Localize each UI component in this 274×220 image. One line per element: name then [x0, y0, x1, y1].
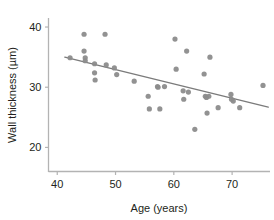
data-point	[192, 127, 197, 132]
data-point	[93, 77, 98, 82]
data-point	[114, 72, 119, 77]
data-point	[157, 106, 162, 111]
data-point	[228, 92, 233, 97]
data-point	[174, 67, 179, 72]
data-point	[204, 111, 209, 116]
data-point	[67, 55, 72, 60]
plot-area-background	[48, 18, 270, 172]
data-point	[231, 98, 236, 103]
data-point	[112, 65, 117, 70]
data-point	[92, 70, 97, 75]
data-point	[202, 71, 207, 76]
data-point	[260, 83, 265, 88]
data-point	[132, 79, 137, 84]
data-point	[92, 61, 97, 66]
x-tick-label-40: 40	[51, 178, 63, 190]
x-tick-label-70: 70	[226, 178, 238, 190]
y-tick-label-20: 20	[29, 141, 41, 153]
data-point	[181, 88, 186, 93]
data-point	[162, 84, 167, 89]
x-axis-title: Age (years)	[131, 202, 188, 214]
data-point	[81, 49, 86, 54]
data-point	[155, 85, 160, 90]
chart-canvas: 40506070 203040 Age (years) Wall thickne…	[0, 0, 274, 220]
data-point	[104, 62, 109, 67]
data-point	[206, 94, 211, 99]
y-tick-label-30: 30	[29, 81, 41, 93]
data-point	[146, 94, 151, 99]
x-tick-label-60: 60	[168, 178, 180, 190]
data-point	[186, 89, 191, 94]
data-point	[83, 58, 88, 63]
y-axis-title: Wall thickness (µm)	[6, 47, 18, 143]
y-tick-label-40: 40	[29, 21, 41, 33]
data-point	[237, 105, 242, 110]
x-tick-label-50: 50	[109, 178, 121, 190]
data-point	[184, 49, 189, 54]
data-point	[81, 32, 86, 37]
data-point	[102, 32, 107, 37]
data-point	[207, 55, 212, 60]
data-point	[181, 97, 186, 102]
scatter-plot-figure: 40506070 203040 Age (years) Wall thickne…	[0, 0, 274, 220]
data-point	[147, 106, 152, 111]
data-point	[172, 36, 177, 41]
data-point	[216, 105, 221, 110]
